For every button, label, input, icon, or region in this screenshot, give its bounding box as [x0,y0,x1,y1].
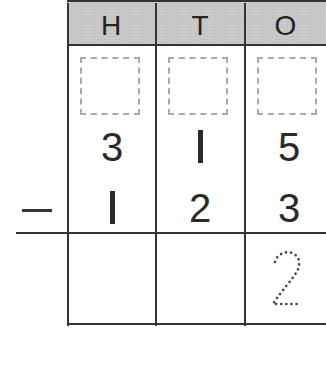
minus-sign [22,209,52,212]
exchange-box-hundreds[interactable] [80,57,140,115]
subtrahend-hundreds [68,188,156,230]
exchange-box-tens[interactable] [168,57,228,115]
answer-cell-hundreds[interactable] [69,234,155,323]
subtrahend-tens: 2 [156,188,244,228]
minuend-tens [156,127,244,169]
subtrahend-ones: 3 [245,188,326,228]
answer-cell-ones[interactable] [246,234,326,323]
grid-bottom-border [67,323,326,325]
minuend-hundreds: 3 [68,127,156,167]
exchange-box-ones[interactable] [257,57,317,115]
answer-cell-tens[interactable] [157,234,244,323]
header-hundreds: H [67,5,155,47]
header-ones: O [245,5,326,47]
header-tens: T [156,5,244,47]
traced-digit-two [246,234,326,323]
minuend-ones: 5 [245,127,326,167]
